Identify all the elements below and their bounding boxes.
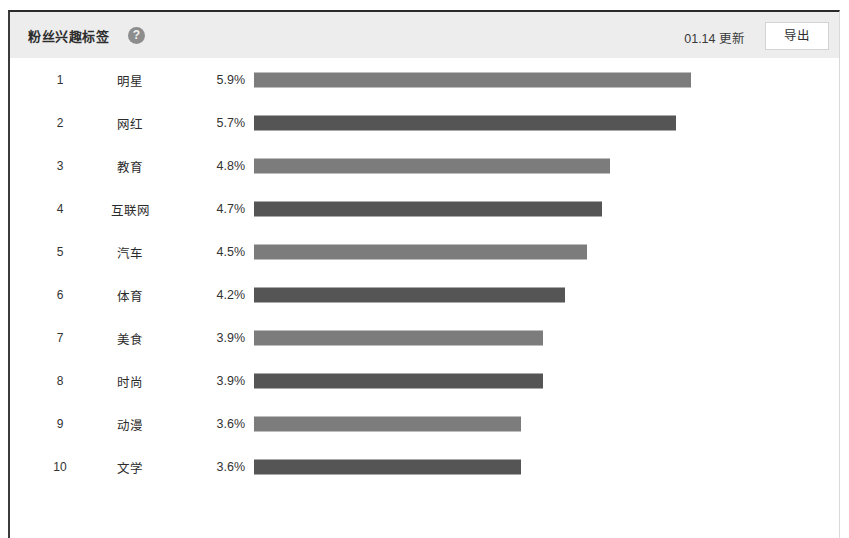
bar-track bbox=[254, 416, 829, 431]
category-label: 汽车 bbox=[90, 242, 170, 261]
table-row: 4互联网4.7% bbox=[10, 187, 839, 230]
rank-number: 2 bbox=[48, 116, 72, 130]
table-row: 6体育4.2% bbox=[10, 273, 839, 316]
bar-track bbox=[254, 373, 829, 388]
category-label: 文学 bbox=[90, 457, 170, 476]
bar-track bbox=[254, 158, 829, 173]
category-label: 网红 bbox=[90, 113, 170, 132]
bar-chart: 1明星5.9%2网红5.7%3教育4.8%4互联网4.7%5汽车4.5%6体育4… bbox=[10, 58, 839, 538]
rank-number: 10 bbox=[48, 460, 72, 474]
bar-row-list: 1明星5.9%2网红5.7%3教育4.8%4互联网4.7%5汽车4.5%6体育4… bbox=[10, 58, 839, 488]
bar bbox=[254, 115, 676, 130]
bar-track bbox=[254, 330, 829, 345]
category-label: 时尚 bbox=[90, 371, 170, 390]
bar bbox=[254, 416, 521, 431]
bar-track bbox=[254, 287, 829, 302]
rank-number: 1 bbox=[48, 73, 72, 87]
bar bbox=[254, 244, 587, 259]
percent-value: 4.2% bbox=[185, 288, 245, 302]
percent-value: 5.9% bbox=[185, 73, 245, 87]
bar bbox=[254, 459, 521, 474]
bar bbox=[254, 287, 565, 302]
export-button[interactable]: 导出 bbox=[765, 22, 829, 50]
table-row: 9动漫3.6% bbox=[10, 402, 839, 445]
page-title: 粉丝兴趣标签 bbox=[28, 26, 109, 45]
rank-number: 5 bbox=[48, 245, 72, 259]
rank-number: 7 bbox=[48, 331, 72, 345]
bar bbox=[254, 201, 602, 216]
percent-value: 3.6% bbox=[185, 417, 245, 431]
category-label: 体育 bbox=[90, 285, 170, 304]
bar bbox=[254, 158, 610, 173]
table-row: 1明星5.9% bbox=[10, 58, 839, 101]
rank-number: 3 bbox=[48, 159, 72, 173]
table-row: 10文学3.6% bbox=[10, 445, 839, 488]
percent-value: 3.6% bbox=[185, 460, 245, 474]
help-icon[interactable]: ? bbox=[128, 27, 145, 44]
category-label: 美食 bbox=[90, 328, 170, 347]
percent-value: 4.5% bbox=[185, 245, 245, 259]
percent-value: 3.9% bbox=[185, 331, 245, 345]
rank-number: 4 bbox=[48, 202, 72, 216]
bar bbox=[254, 373, 543, 388]
bar-track bbox=[254, 201, 829, 216]
card-header: 粉丝兴趣标签 ? 01.14 更新 导出 bbox=[10, 12, 839, 59]
rank-number: 9 bbox=[48, 417, 72, 431]
rank-number: 8 bbox=[48, 374, 72, 388]
bar-track bbox=[254, 72, 829, 87]
table-row: 3教育4.8% bbox=[10, 144, 839, 187]
bar-track bbox=[254, 459, 829, 474]
percent-value: 4.7% bbox=[185, 202, 245, 216]
category-label: 动漫 bbox=[90, 414, 170, 433]
bar-track bbox=[254, 244, 829, 259]
category-label: 明星 bbox=[90, 70, 170, 89]
fan-interest-tags-card: 粉丝兴趣标签 ? 01.14 更新 导出 1明星5.9%2网红5.7%3教育4.… bbox=[8, 10, 840, 538]
update-timestamp: 01.14 更新 bbox=[684, 28, 745, 47]
category-label: 互联网 bbox=[90, 199, 170, 218]
percent-value: 4.8% bbox=[185, 159, 245, 173]
bar bbox=[254, 72, 691, 87]
bar-track bbox=[254, 115, 829, 130]
category-label: 教育 bbox=[90, 156, 170, 175]
rank-number: 6 bbox=[48, 288, 72, 302]
table-row: 5汽车4.5% bbox=[10, 230, 839, 273]
bar bbox=[254, 330, 543, 345]
table-row: 7美食3.9% bbox=[10, 316, 839, 359]
table-row: 2网红5.7% bbox=[10, 101, 839, 144]
table-row: 8时尚3.9% bbox=[10, 359, 839, 402]
percent-value: 3.9% bbox=[185, 374, 245, 388]
percent-value: 5.7% bbox=[185, 116, 245, 130]
